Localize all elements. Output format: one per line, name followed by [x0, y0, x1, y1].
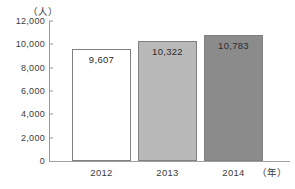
y-tick-mark-10000 — [49, 44, 53, 45]
bar-2013[interactable]: 10,322 — [138, 41, 197, 161]
bar-value-2013: 10,322 — [138, 46, 197, 57]
y-tick-mark-8000 — [49, 67, 53, 68]
bar-value-2014: 10,783 — [204, 40, 263, 51]
y-tick-label-10000: 10,000 — [16, 40, 45, 49]
bar-chart: （人） 0 2,000 4,000 6,000 8,000 10,000 12,… — [0, 0, 295, 189]
y-tick-label-6000: 6,000 — [21, 87, 45, 96]
y-tick-mark-4000 — [49, 114, 53, 115]
x-axis-unit-label: （年） — [257, 167, 287, 178]
y-tick-label-8000: 8,000 — [21, 63, 45, 72]
bar-2012[interactable]: 9,607 — [72, 49, 131, 161]
x-axis-line — [49, 161, 290, 162]
bar-fill-2013 — [138, 41, 197, 161]
plot-area: 0 2,000 4,000 6,000 8,000 10,000 12,000 — [49, 21, 285, 161]
bar-fill-2014 — [204, 35, 263, 161]
y-tick-label-0: 0 — [40, 157, 45, 166]
bar-value-2012: 9,607 — [72, 54, 131, 65]
y-tick-mark-6000 — [49, 91, 53, 92]
x-label-2012: 2012 — [72, 167, 131, 178]
y-tick-label-2000: 2,000 — [21, 133, 45, 142]
x-label-2014: 2014 — [204, 167, 263, 178]
y-tick-label-12000: 12,000 — [16, 17, 45, 26]
y-tick-mark-12000 — [49, 21, 53, 22]
y-tick-mark-2000 — [49, 137, 53, 138]
x-label-2013: 2013 — [138, 167, 197, 178]
bar-2014[interactable]: 10,783 — [204, 35, 263, 161]
y-tick-label-4000: 4,000 — [21, 110, 45, 119]
bar-fill-2012 — [72, 49, 131, 161]
